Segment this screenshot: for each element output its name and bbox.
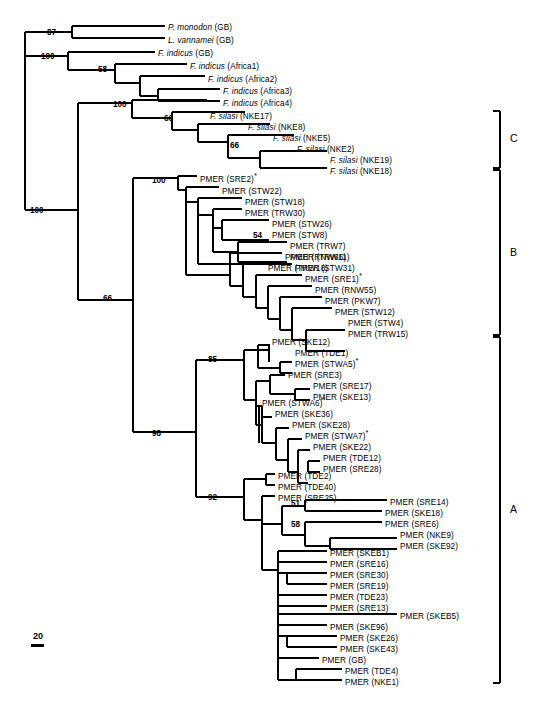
taxon-label: PMER (SRE13) [330,605,389,613]
taxon-label: PMER (SKE36) [275,411,333,419]
taxon-label: PMER (TDE4) [345,668,398,676]
bootstrap-value: 87 [47,29,56,37]
taxon-label: F. indicus (GB) [158,50,213,58]
taxon-label: PMER (GB) [322,657,366,665]
bootstrap-value: 100 [152,177,166,185]
taxon-label: PMER (SRE2)* [200,176,257,184]
taxon-label: PMER (STW22) [222,188,282,196]
taxon-label: PMER (TRW30) [245,210,305,218]
taxon-label: PMER (STW4) [348,320,403,328]
taxon-label: PMER (SKE26) [340,635,398,643]
taxon-label: F. indicus (Africa2) [208,76,277,84]
taxon-label: PMER (SRE1)* [305,276,362,284]
taxon-label: PMER (SKE96) [330,624,388,632]
taxon-label: F. silasi (NKE2) [297,146,354,154]
taxon-label: PMER (STWA7)* [305,433,369,441]
taxon-label: PMER (STW12) [335,309,395,317]
bootstrap-value: 85 [208,356,217,364]
taxon-label: PMER (SKE12) [272,339,330,347]
taxon-label: F. silasi (NKE19) [330,157,392,165]
taxon-label: P. monodon (GB) [168,24,232,32]
clade-label-c: C [510,133,518,144]
bootstrap-value: 66 [103,295,112,303]
taxon-label: PMER (SKE28) [292,422,350,430]
clade-label-a: A [510,504,517,515]
taxon-label: PMER (SRE30) [330,572,389,580]
taxon-label: PMER (RNW55) [315,287,376,295]
taxon-label: PMER (STW18) [245,199,305,207]
taxon-label: PMER (STW26) [272,221,332,229]
taxon-label: PMER (SKE92) [400,543,458,551]
taxon-label: PMER (SKE22) [313,444,371,452]
bootstrap-value: 66 [164,115,173,123]
taxon-label: PMER (SRE14) [390,499,449,507]
scale-bar-label: 20 [33,632,43,641]
taxon-label: L. vannamei (GB) [168,37,234,45]
taxon-label: PMER (RNW66) [285,254,346,262]
taxon-label: PMER (TRW15) [348,331,408,339]
taxon-label: PMER (TDE23) [330,594,388,602]
bootstrap-value: 92 [208,494,217,502]
taxon-label: PMER (STW31) [295,265,355,273]
taxon-label: PMER (STW8) [272,232,327,240]
bootstrap-value: 66 [230,142,239,150]
clade-label-b: B [510,247,517,258]
taxon-label: PMER (TRW7) [290,243,346,251]
taxon-label: PMER (PKW7) [325,298,381,306]
bootstrap-value: 58 [98,66,107,74]
taxon-label: PMER (SRE16) [330,561,389,569]
taxon-label: PMER (SRE17) [313,383,372,391]
taxon-label: F. indicus (Africa4) [223,100,292,108]
taxon-label: F. silasi (NKE5) [273,135,330,143]
taxon-label: PMER (SKEB5) [400,613,459,621]
bootstrap-value: 100 [113,101,127,109]
bootstrap-value: 100 [41,53,55,61]
taxon-label: F. indicus (Africa3) [223,88,292,96]
taxon-label: F. silasi (NKE17) [210,113,272,121]
taxon-label: PMER (TDE1) [295,350,348,358]
taxon-label: PMER (STWA6)* [262,400,326,408]
bootstrap-value: 98 [152,430,161,438]
bootstrap-value: 54 [253,232,262,240]
taxon-label: PMER (SRE3) [288,372,342,380]
taxon-label: PMER (SKE18) [385,510,443,518]
taxon-label: PMER (SRE25) [278,495,337,503]
taxon-label: PMER (SRE6) [385,521,439,529]
taxon-label: PMER (SRE28) [323,466,382,474]
taxon-label: PMER (TDE12) [323,455,381,463]
taxon-label: F. silasi (NKE18) [330,168,392,176]
bootstrap-value: 51 [291,500,300,508]
taxon-label: F. indicus (Africa1) [190,63,259,71]
bootstrap-value: 100 [30,207,44,215]
taxon-label: PMER (SKEB1) [330,550,389,558]
taxon-label: PMER (TDE2) [278,473,331,481]
taxon-label: PMER (NKE9) [400,532,454,540]
taxon-label: PMER (TDE40) [278,484,336,492]
taxon-label: PMER (STWA5)* [295,361,359,369]
taxon-label: PMER (SRE19) [330,583,389,591]
taxon-label: PMER (NKE1) [345,679,399,687]
phylogenetic-tree-figure: P. monodon (GB)L. vannamei (GB)F. indicu… [0,0,542,708]
taxon-label: F. silasi (NKE8) [248,124,305,132]
bootstrap-value: 58 [291,521,300,529]
taxon-label: PMER (SKE43) [340,646,398,654]
